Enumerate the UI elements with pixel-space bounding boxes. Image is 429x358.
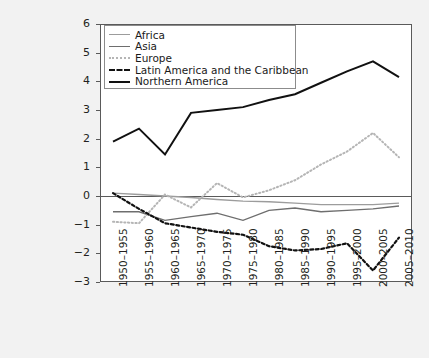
y-axis-label: 6 [62, 18, 90, 29]
legend-swatch-icon [109, 41, 130, 52]
x-axis-label: 1950–1955 [118, 228, 129, 287]
y-axis-label: 4 [62, 75, 90, 86]
legend-label: Africa [135, 29, 165, 41]
x-axis-label: 1955–1960 [144, 228, 155, 287]
legend-label: Asia [135, 40, 157, 52]
y-axis-label: 1 [62, 161, 90, 172]
legend-swatch-icon [109, 52, 130, 63]
legend-swatch-icon [109, 64, 130, 75]
x-axis-label: 1970–1975 [222, 228, 233, 287]
x-axis-label: 1965–1970 [196, 228, 207, 287]
y-axis-label: −1 [62, 219, 90, 230]
x-axis-label: 1990–1995 [326, 228, 337, 287]
legend-item: Europe [109, 52, 291, 64]
x-axis-label: 1975–1980 [248, 228, 259, 287]
legend-swatch-icon [109, 76, 130, 87]
legend-item: Latin America and the Caribbean [109, 64, 291, 76]
x-axis-label: 1995–2000 [352, 228, 363, 287]
y-axis-label: −3 [62, 276, 90, 287]
x-axis-label: 1985–1990 [300, 228, 311, 287]
x-axis-label: 2000–2005 [378, 228, 389, 287]
y-axis-label: 3 [62, 104, 90, 115]
line-chart: 6543210−1−2−3 1950–19551955–19601960–196… [0, 0, 429, 358]
legend-item: Northern America [109, 75, 291, 87]
legend-item: Asia [109, 41, 291, 53]
y-axis-label: 5 [62, 47, 90, 58]
legend-label: Northern America [135, 75, 228, 87]
y-axis-label: 0 [62, 190, 90, 201]
x-axis-label: 1960–1965 [170, 228, 181, 287]
legend-item: Africa [109, 29, 291, 41]
x-axis-label: 1980–1985 [274, 228, 285, 287]
x-axis-label: 2005–2010 [404, 228, 415, 287]
legend-swatch-icon [109, 29, 130, 40]
legend-label: Europe [135, 52, 172, 64]
chart-legend: AfricaAsiaEuropeLatin America and the Ca… [104, 25, 296, 89]
y-axis-label: −2 [62, 247, 90, 258]
legend-label: Latin America and the Caribbean [135, 64, 309, 76]
y-axis-label: 2 [62, 133, 90, 144]
